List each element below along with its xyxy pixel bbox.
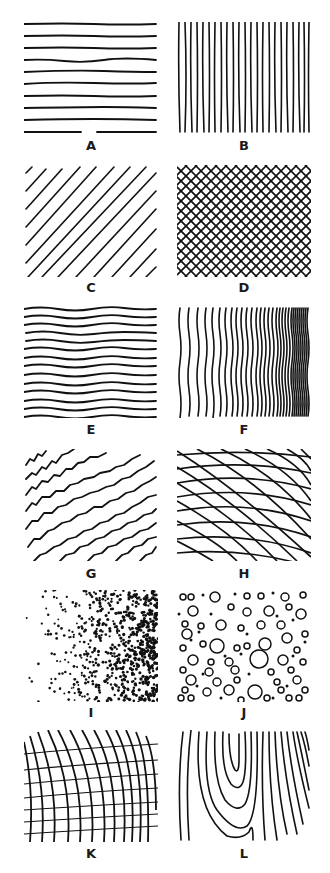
graduated-vertical-lines-drawing bbox=[177, 306, 311, 418]
wavy-horizontal-lines-drawing bbox=[24, 306, 158, 418]
circles-and-dots-drawing bbox=[177, 590, 311, 702]
cross-hatch-drawing bbox=[177, 165, 311, 277]
perspective-grid-drawing bbox=[24, 730, 158, 842]
texture-panel-i bbox=[24, 590, 158, 702]
texture-panel-e bbox=[24, 306, 158, 418]
texture-panel-k bbox=[24, 730, 158, 842]
stipple-dots-drawing bbox=[24, 590, 158, 702]
texture-panel-c bbox=[24, 165, 158, 277]
panel-label-h: H bbox=[177, 567, 311, 581]
panel-label-e: E bbox=[24, 423, 158, 437]
texture-panel-g bbox=[24, 449, 158, 561]
horizontal-lines-drawing bbox=[24, 22, 158, 134]
panel-label-g: G bbox=[24, 567, 158, 581]
curved-cross-hatch-drawing bbox=[177, 449, 311, 561]
texture-panel-b bbox=[177, 22, 311, 134]
texture-panel-f bbox=[177, 306, 311, 418]
panel-label-k: K bbox=[24, 847, 158, 861]
wood-grain-drawing bbox=[177, 730, 311, 842]
vertical-lines-drawing bbox=[177, 22, 311, 134]
texture-panel-l bbox=[177, 730, 311, 842]
panel-label-i: I bbox=[24, 706, 158, 720]
panel-label-l: L bbox=[177, 847, 311, 861]
panel-label-c: C bbox=[24, 281, 158, 295]
texture-panel-a bbox=[24, 22, 158, 134]
jagged-diagonal-lines-drawing bbox=[24, 449, 158, 561]
panel-label-f: F bbox=[177, 423, 311, 437]
panel-label-j: J bbox=[177, 706, 311, 720]
texture-panel-j bbox=[177, 590, 311, 702]
panel-label-b: B bbox=[177, 139, 311, 153]
figure-caption bbox=[24, 864, 314, 873]
texture-panel-d bbox=[177, 165, 311, 277]
panel-label-d: D bbox=[177, 281, 311, 295]
diagonal-lines-drawing bbox=[24, 165, 158, 277]
panel-label-a: A bbox=[24, 139, 158, 153]
texture-panel-h bbox=[177, 449, 311, 561]
